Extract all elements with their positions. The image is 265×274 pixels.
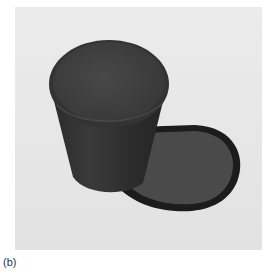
cup-rim bbox=[49, 40, 169, 128]
figure-caption: (b) bbox=[3, 256, 16, 268]
cup-illustration bbox=[15, 7, 262, 250]
photo-figure bbox=[15, 7, 262, 250]
